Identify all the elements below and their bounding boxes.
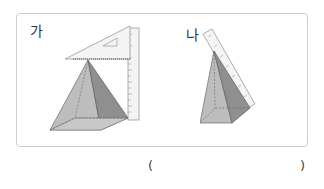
answer-open-paren: ( bbox=[148, 158, 153, 173]
answer-blank[interactable] bbox=[160, 156, 295, 174]
figure-label-ga: 가 bbox=[30, 24, 43, 38]
answer-close-paren: ) bbox=[300, 158, 305, 173]
pyramid-figure-na bbox=[200, 26, 290, 126]
pyramid-figure-ga bbox=[45, 24, 145, 134]
figure-label-na: 나 bbox=[186, 28, 199, 42]
